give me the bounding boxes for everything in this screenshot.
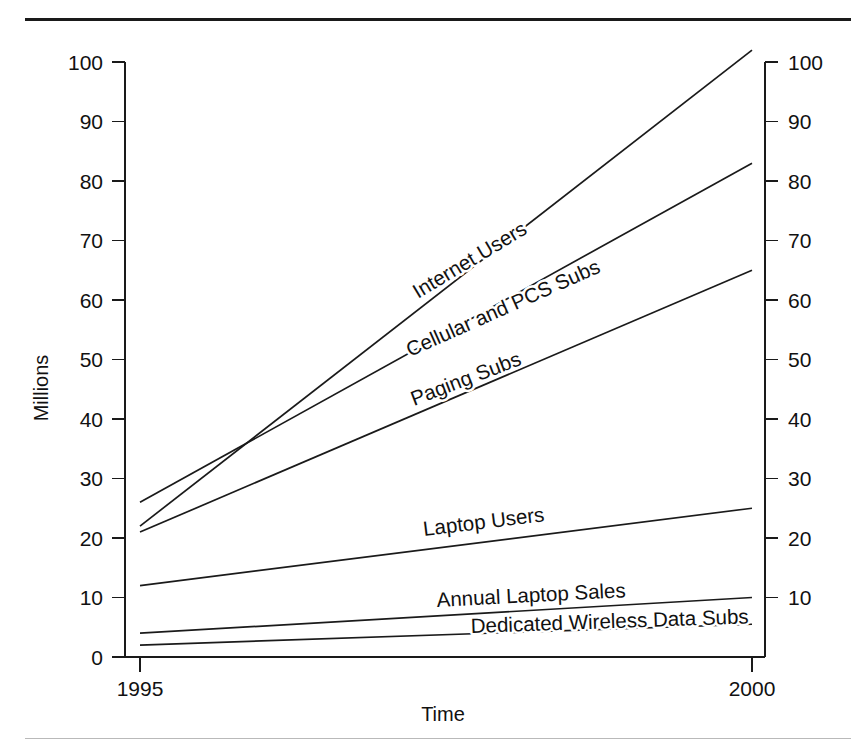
x-axis-ticks: 1995 2000	[117, 657, 776, 700]
y-tick-label-right-60: 60	[788, 289, 811, 312]
series-label-dedicated-wireless-data-subs: Dedicated Wireless Data Subs	[470, 604, 749, 637]
y-tick-label-left-30: 30	[80, 467, 103, 490]
y-tick-label-right-40: 40	[788, 408, 811, 431]
y-tick-label-left-60: 60	[80, 289, 103, 312]
x-tick-label-2000: 2000	[729, 677, 776, 700]
y-tick-label-right-100: 100	[788, 51, 823, 74]
series-line-paging-subs	[140, 270, 752, 532]
series-label-laptop-users: Laptop Users	[422, 502, 546, 540]
axis-group	[125, 62, 765, 657]
y-tick-label-left-100: 100	[68, 51, 103, 74]
y-tick-label-left-70: 70	[80, 229, 103, 252]
y-tick-label-left-90: 90	[80, 110, 103, 133]
y-tick-label-right-50: 50	[788, 348, 811, 371]
series-labels-group: Internet UsersInternet UsersCellular and…	[402, 216, 749, 637]
y-tick-label-right-20: 20	[788, 527, 811, 550]
line-chart-plot: 0102030405060708090100 10203040506070809…	[0, 0, 851, 754]
y-axis-left-ticks: 0102030405060708090100	[68, 51, 125, 669]
series-line-internet-users	[140, 50, 752, 526]
y-tick-label-left-50: 50	[80, 348, 103, 371]
y-tick-label-right-10: 10	[788, 586, 811, 609]
y-axis-right-ticks: 102030405060708090100	[765, 51, 823, 610]
y-tick-label-left-0: 0	[91, 646, 103, 669]
y-tick-label-right-70: 70	[788, 229, 811, 252]
y-tick-label-left-20: 20	[80, 527, 103, 550]
y-tick-label-right-90: 90	[788, 110, 811, 133]
y-tick-label-left-80: 80	[80, 170, 103, 193]
y-tick-label-left-10: 10	[80, 586, 103, 609]
y-axis-title: Millions	[30, 355, 52, 422]
y-tick-label-right-30: 30	[788, 467, 811, 490]
series-lines-group	[140, 50, 752, 645]
y-tick-label-left-40: 40	[80, 408, 103, 431]
series-label-paging-subs: Paging Subs	[407, 347, 524, 410]
x-axis-title: Time	[421, 703, 465, 725]
series-label-internet-users: Internet Users	[408, 216, 530, 302]
x-tick-label-1995: 1995	[117, 677, 164, 700]
figure-container: 0102030405060708090100 10203040506070809…	[0, 0, 851, 754]
y-tick-label-right-80: 80	[788, 170, 811, 193]
